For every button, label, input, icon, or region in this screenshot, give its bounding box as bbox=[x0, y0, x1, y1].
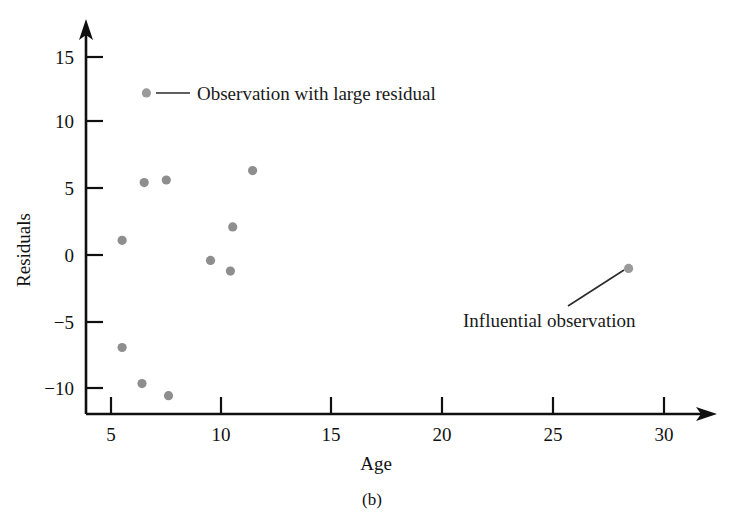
data-point bbox=[118, 343, 127, 352]
figure-caption: (b) bbox=[362, 490, 382, 509]
data-point bbox=[624, 264, 633, 273]
x-tick-label-15: 15 bbox=[322, 424, 341, 445]
data-point bbox=[162, 175, 171, 184]
x-axis bbox=[86, 397, 717, 421]
data-point bbox=[226, 267, 235, 276]
scatter-plot-svg: 15 10 5 0 −5 −10 5 10 15 20 25 30 Age Re… bbox=[0, 0, 736, 530]
residual-plot-figure: 15 10 5 0 −5 −10 5 10 15 20 25 30 Age Re… bbox=[0, 0, 736, 530]
y-tick-label-neg10: −10 bbox=[44, 378, 74, 399]
y-tick-label-5: 5 bbox=[65, 178, 75, 199]
data-point bbox=[142, 88, 151, 97]
x-tick-label-30: 30 bbox=[655, 424, 674, 445]
x-axis-title: Age bbox=[360, 453, 392, 474]
y-tick-label-neg5: −5 bbox=[54, 312, 74, 333]
influential-label: Influential observation bbox=[463, 310, 636, 331]
y-axis bbox=[79, 19, 103, 414]
y-tick-label-0: 0 bbox=[65, 245, 75, 266]
x-tick-label-5: 5 bbox=[106, 424, 116, 445]
data-points-layer bbox=[118, 88, 634, 400]
data-point bbox=[206, 256, 215, 265]
data-point bbox=[164, 391, 173, 400]
data-point bbox=[118, 236, 127, 245]
data-point bbox=[248, 166, 257, 175]
x-tick-label-20: 20 bbox=[433, 424, 452, 445]
x-tick-label-25: 25 bbox=[544, 424, 563, 445]
large-residual-label: Observation with large residual bbox=[197, 83, 436, 104]
y-axis-title: Residuals bbox=[13, 213, 34, 287]
x-tick-label-10: 10 bbox=[212, 424, 231, 445]
data-point bbox=[137, 379, 146, 388]
y-tick-label-10: 10 bbox=[55, 111, 74, 132]
influential-annotation: Influential observation bbox=[463, 270, 636, 331]
data-point bbox=[140, 178, 149, 187]
data-point bbox=[228, 222, 237, 231]
large-residual-annotation: Observation with large residual bbox=[156, 83, 436, 104]
y-tick-label-15: 15 bbox=[55, 47, 74, 68]
